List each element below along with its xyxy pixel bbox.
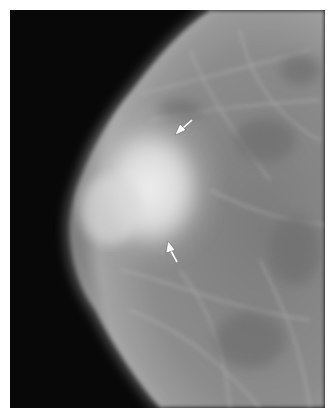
nipple-region (80, 175, 140, 245)
mammogram-graphic (10, 10, 325, 408)
mammogram-image (10, 10, 325, 408)
